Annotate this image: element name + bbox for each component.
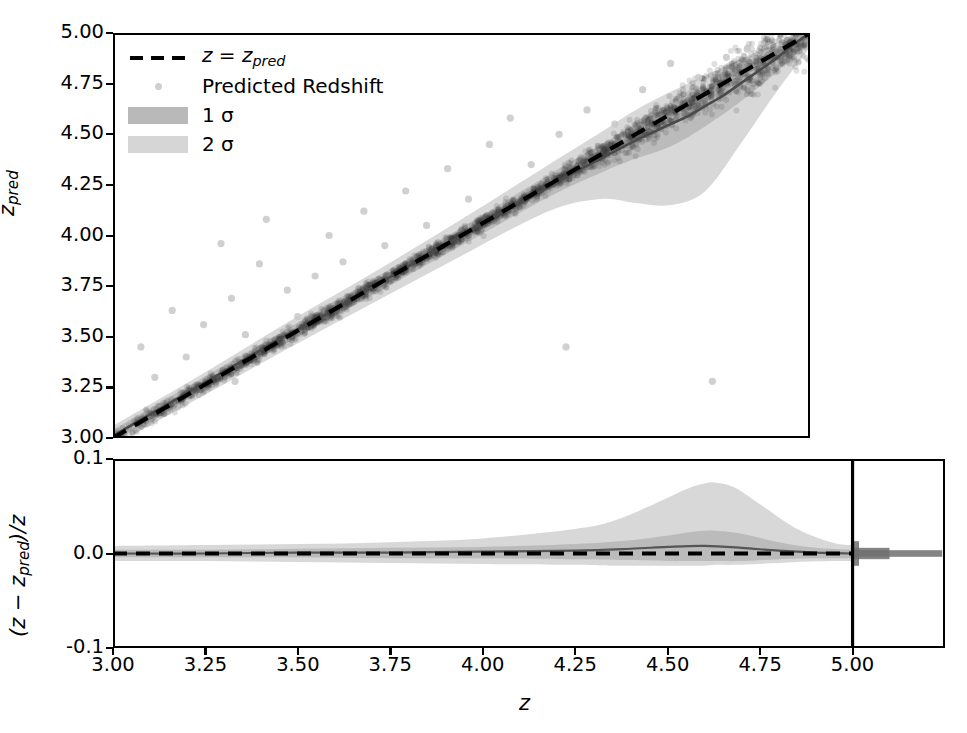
lower-y-tickmark: [106, 553, 113, 555]
upper-y-tickmark: [106, 437, 113, 439]
upper-y-axis-label-main: z: [0, 205, 19, 216]
legend-identity-sub: pred: [252, 54, 285, 70]
lower-y-tick-0.1: 0.1: [0, 446, 104, 469]
x-tick-3.75: 3.75: [357, 653, 423, 676]
x-tickmark: [574, 648, 576, 655]
legend-key-dashed-line: [128, 47, 190, 67]
upper-y-tickmark: [106, 83, 113, 85]
upper-y-tickmark: [106, 184, 113, 186]
legend-label-identity: z = zpred: [202, 43, 286, 69]
x-tickmark: [759, 648, 761, 655]
upper-y-tick-4.75: 4.75: [0, 71, 104, 94]
upper-y-tick-5.00: 5.00: [0, 20, 104, 43]
legend: z = zpred Predicted Redshift 1 σ 2 σ: [128, 42, 398, 158]
upper-y-tick-3.25: 3.25: [0, 374, 104, 397]
band-2sigma-icon: [128, 136, 188, 153]
legend-entry-sigma1: 1 σ: [128, 100, 398, 129]
x-tickmark: [667, 648, 669, 655]
lower-y-tick-0.0: 0.0: [0, 541, 104, 564]
x-tick-4.25: 4.25: [542, 653, 608, 676]
lower-panel-plot: [113, 459, 945, 648]
upper-y-tickmark: [106, 336, 113, 338]
x-tickmark: [852, 648, 854, 655]
lower-y-axis-label: (z − zpred)/z: [6, 515, 33, 637]
x-axis-label: z: [519, 691, 530, 715]
x-tick-4.50: 4.50: [635, 653, 701, 676]
legend-label-scatter: Predicted Redshift: [202, 74, 383, 98]
x-tick-4.75: 4.75: [727, 653, 793, 676]
x-tickmark: [204, 648, 206, 655]
x-tick-3.50: 3.50: [265, 653, 331, 676]
upper-y-tick-3.50: 3.50: [0, 324, 104, 347]
lower-panel: [113, 459, 945, 648]
lower-y-axis-label-pre: (z − z: [6, 576, 30, 637]
upper-y-tickmark: [106, 235, 113, 237]
dashed-line-icon: [130, 56, 188, 60]
legend-key-sigma1: [128, 105, 190, 125]
lower-y-axis-label-post: )/z: [6, 515, 30, 541]
scatter-marker-icon: [155, 83, 162, 90]
legend-entry-sigma2: 2 σ: [128, 129, 398, 158]
x-tickmark: [482, 648, 484, 655]
legend-entry-scatter: Predicted Redshift: [128, 71, 398, 100]
x-tickmark: [389, 648, 391, 655]
x-tick-3.25: 3.25: [172, 653, 238, 676]
legend-label-sigma1: 1 σ: [202, 103, 234, 127]
x-tickmark: [297, 648, 299, 655]
legend-key-sigma2: [128, 134, 190, 154]
band-1sigma-icon: [128, 107, 188, 124]
x-tick-3.00: 3.00: [80, 653, 146, 676]
upper-y-tickmark: [106, 32, 113, 34]
legend-identity-main: z = z: [202, 43, 252, 67]
upper-y-tickmark: [106, 285, 113, 287]
upper-y-tick-3.75: 3.75: [0, 273, 104, 296]
upper-y-tickmark: [106, 386, 113, 388]
upper-y-tick-4.25: 4.25: [0, 172, 104, 195]
legend-entry-identity: z = zpred: [128, 42, 398, 71]
x-tick-4.00: 4.00: [450, 653, 516, 676]
upper-y-tick-4.50: 4.50: [0, 121, 104, 144]
upper-y-tickmark: [106, 133, 113, 135]
upper-y-tick-4.00: 4.00: [0, 223, 104, 246]
x-tickmark: [112, 648, 114, 655]
lower-y-tickmark: [106, 458, 113, 460]
legend-label-sigma2: 2 σ: [202, 132, 234, 156]
legend-key-scatter: [128, 76, 190, 96]
x-tick-5.00: 5.00: [820, 653, 886, 676]
figure-root: zpred (z − zpred)/z z z = zpred Predicte…: [0, 0, 967, 733]
upper-y-tick-3.00: 3.00: [0, 425, 104, 448]
